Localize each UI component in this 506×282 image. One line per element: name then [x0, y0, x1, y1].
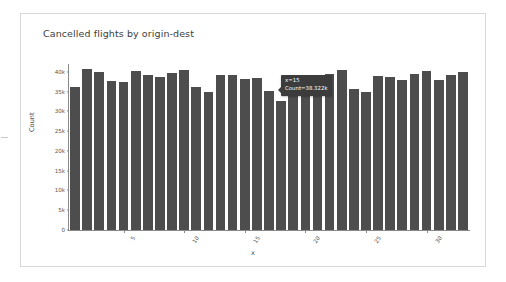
- bar[interactable]: [458, 72, 468, 230]
- bar[interactable]: [288, 84, 298, 230]
- bar[interactable]: [70, 87, 80, 230]
- y-tick-label: 10k: [55, 187, 65, 193]
- y-tick-label: 15k: [55, 168, 65, 174]
- x-tick-label: 15: [252, 235, 261, 244]
- bar[interactable]: [446, 75, 456, 230]
- bar[interactable]: [373, 76, 383, 230]
- tooltip-x-value: x=15: [285, 77, 328, 85]
- bar[interactable]: [107, 81, 117, 230]
- bar[interactable]: [422, 71, 432, 230]
- bar[interactable]: [143, 75, 153, 230]
- bar[interactable]: [204, 92, 214, 230]
- x-tick-mark: [305, 231, 306, 233]
- y-tick-label: 40k: [55, 69, 65, 75]
- tooltip-arrow: [278, 87, 281, 93]
- x-tick-mark: [245, 231, 246, 233]
- bar[interactable]: [167, 73, 177, 230]
- bar[interactable]: [179, 70, 189, 230]
- chart-card: Cancelled flights by origin-dest Count x…: [20, 13, 486, 267]
- y-tick-label: 0: [61, 227, 65, 233]
- y-axis-label: Count: [28, 112, 36, 132]
- bar[interactable]: [131, 71, 141, 230]
- bar[interactable]: [349, 89, 359, 230]
- bar[interactable]: [434, 80, 444, 230]
- bar[interactable]: [155, 77, 165, 230]
- bar[interactable]: [313, 79, 323, 230]
- y-tick-label: 20k: [55, 148, 65, 154]
- bar[interactable]: [216, 75, 226, 230]
- bar[interactable]: [385, 77, 395, 230]
- x-tick-mark: [184, 231, 185, 233]
- bar[interactable]: [397, 80, 407, 230]
- x-tick-mark: [366, 231, 367, 233]
- screenshot-root: Cancelled flights by origin-dest Count x…: [0, 0, 506, 282]
- tooltip-count-value: Count=38.322k: [285, 85, 328, 93]
- y-tick-label: 25k: [55, 128, 65, 134]
- x-tick-labels: 51015202530: [69, 231, 469, 251]
- bar[interactable]: [240, 79, 250, 230]
- bar[interactable]: [276, 101, 286, 230]
- x-tick-label: 5: [129, 235, 136, 241]
- y-tick-label: 35k: [55, 89, 65, 95]
- bar[interactable]: [337, 70, 347, 230]
- bar[interactable]: [252, 78, 262, 230]
- chart-title: Cancelled flights by origin-dest: [43, 28, 194, 39]
- x-tick-label: 30: [434, 235, 443, 244]
- bar[interactable]: [301, 78, 311, 230]
- bar[interactable]: [325, 74, 335, 230]
- page-edge-mark: [1, 137, 8, 138]
- chart-tooltip: x=15 Count=38.322k: [281, 75, 332, 96]
- x-tick-label: 20: [312, 235, 321, 244]
- bar[interactable]: [410, 74, 420, 230]
- x-tick-label: 25: [373, 235, 382, 244]
- y-tick-label: 5k: [58, 207, 65, 213]
- bar[interactable]: [191, 87, 201, 230]
- x-tick-mark: [427, 231, 428, 233]
- bar[interactable]: [228, 75, 238, 230]
- bar[interactable]: [94, 72, 104, 230]
- bar[interactable]: [82, 69, 92, 230]
- x-tick-label: 10: [191, 235, 200, 244]
- bar[interactable]: [264, 91, 274, 230]
- bar[interactable]: [119, 82, 129, 230]
- bar[interactable]: [361, 92, 371, 230]
- y-tick-label: 30k: [55, 108, 65, 114]
- x-tick-mark: [124, 231, 125, 233]
- plot-area: [69, 64, 469, 230]
